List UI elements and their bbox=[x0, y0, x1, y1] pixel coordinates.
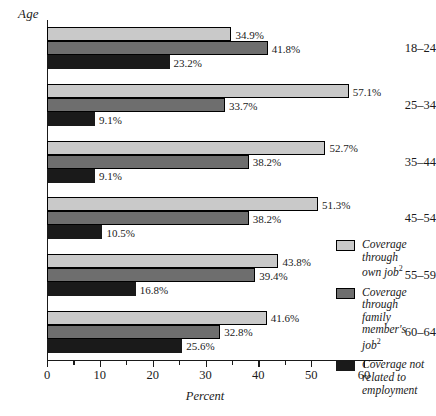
bar-value-label: 33.7% bbox=[229, 100, 257, 112]
bar-60-64-series0 bbox=[47, 311, 267, 325]
legend-label-1: Coverage throughfamily member'sjob2 bbox=[362, 286, 436, 352]
bar-35-44-series0 bbox=[47, 141, 325, 155]
x-tick-50 bbox=[311, 361, 312, 367]
bar-value-label: 38.2% bbox=[253, 156, 281, 168]
bar-value-label: 41.6% bbox=[271, 312, 299, 324]
legend-swatch-icon-1 bbox=[336, 288, 355, 299]
bar-25-34-series0 bbox=[47, 84, 349, 98]
bar-25-34-series1 bbox=[47, 98, 225, 112]
x-tick-20 bbox=[153, 361, 154, 367]
bar-18-24-series1 bbox=[47, 41, 268, 55]
x-tick-label-0: 0 bbox=[44, 368, 50, 383]
legend-item-0: Coverage throughown job2 bbox=[336, 238, 436, 279]
bar-value-label: 34.9% bbox=[235, 29, 263, 41]
bar-value-label: 57.1% bbox=[353, 86, 381, 98]
x-tick-label-40: 40 bbox=[252, 368, 265, 383]
bar-18-24-series0 bbox=[47, 27, 231, 41]
bar-45-54-series1 bbox=[47, 211, 249, 225]
bar-35-44-series2 bbox=[47, 169, 95, 183]
bar-value-label: 38.2% bbox=[253, 213, 281, 225]
x-tick-40 bbox=[258, 361, 259, 367]
bar-value-label: 9.1% bbox=[99, 114, 122, 126]
category-label-35-44: 35–44 bbox=[392, 154, 436, 169]
legend-item-1: Coverage throughfamily member'sjob2 bbox=[336, 286, 436, 352]
bar-value-label: 41.8% bbox=[272, 43, 300, 55]
bar-value-label: 16.8% bbox=[140, 284, 168, 296]
chart-legend: Coverage throughown job2Coverage through… bbox=[336, 238, 436, 403]
x-tick-label-10: 10 bbox=[94, 368, 107, 383]
x-tick-0 bbox=[47, 361, 48, 367]
x-axis-title: Percent bbox=[186, 389, 224, 404]
legend-label-0: Coverage throughown job2 bbox=[362, 238, 436, 279]
bar-18-24-series2 bbox=[47, 55, 170, 69]
bar-value-label: 39.4% bbox=[259, 270, 287, 282]
x-axis-line bbox=[47, 360, 383, 361]
bar-25-34-series2 bbox=[47, 112, 95, 126]
x-tick-45 bbox=[285, 361, 286, 365]
bar-value-label: 9.1% bbox=[99, 170, 122, 182]
bar-60-64-series2 bbox=[47, 339, 182, 353]
category-label-25-34: 25–34 bbox=[392, 98, 436, 113]
legend-item-2: Coverage notrelated toemployment bbox=[336, 358, 436, 396]
bar-55-59-series1 bbox=[47, 268, 255, 282]
x-tick-label-20: 20 bbox=[146, 368, 159, 383]
x-tick-35 bbox=[232, 361, 233, 365]
bar-value-label: 10.5% bbox=[106, 227, 134, 239]
x-tick-label-30: 30 bbox=[199, 368, 212, 383]
x-tick-10 bbox=[100, 361, 101, 367]
x-tick-25 bbox=[179, 361, 180, 365]
category-label-45-54: 45–54 bbox=[392, 211, 436, 226]
legend-label-2: Coverage notrelated toemployment bbox=[362, 358, 436, 396]
bar-value-label: 43.8% bbox=[282, 256, 310, 268]
legend-swatch-icon-2 bbox=[336, 360, 355, 371]
chart-container: Age 34.9%41.8%23.2%57.1%33.7%9.1%52.7%38… bbox=[0, 0, 436, 416]
bar-value-label: 52.7% bbox=[329, 142, 357, 154]
x-tick-15 bbox=[126, 361, 127, 365]
x-tick-label-50: 50 bbox=[305, 368, 318, 383]
y-axis-title: Age bbox=[18, 6, 39, 22]
bar-value-label: 51.3% bbox=[322, 199, 350, 211]
x-tick-5 bbox=[73, 361, 74, 365]
category-label-18-24: 18–24 bbox=[392, 41, 436, 56]
bar-value-label: 23.2% bbox=[174, 57, 202, 69]
bar-35-44-series1 bbox=[47, 155, 249, 169]
x-tick-30 bbox=[206, 361, 207, 367]
bar-55-59-series0 bbox=[47, 254, 278, 268]
bar-45-54-series2 bbox=[47, 225, 102, 239]
bar-45-54-series0 bbox=[47, 197, 318, 211]
bar-value-label: 32.8% bbox=[224, 326, 252, 338]
bar-55-59-series2 bbox=[47, 282, 136, 296]
bar-60-64-series1 bbox=[47, 325, 220, 339]
bar-value-label: 25.6% bbox=[186, 340, 214, 352]
legend-swatch-icon-0 bbox=[336, 240, 355, 251]
